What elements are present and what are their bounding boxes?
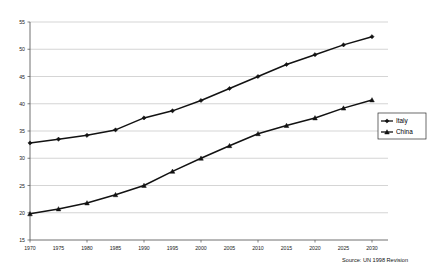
y-tick-label-30: 30 <box>19 155 25 161</box>
data-point-italy-2020 <box>313 53 317 57</box>
y-tick-label-50: 50 <box>19 46 25 52</box>
data-point-italy-2000 <box>199 98 203 102</box>
y-tick-label-25: 25 <box>19 183 25 189</box>
y-tick-label-40: 40 <box>19 101 25 107</box>
chart-container: 152025303540455055 197019751980198519901… <box>0 0 429 274</box>
data-point-italy-1985 <box>113 128 117 132</box>
y-tick-label-15: 15 <box>19 237 25 243</box>
y-tick-label-20: 20 <box>19 210 25 216</box>
data-point-italy-2025 <box>341 43 345 47</box>
x-tick-label-2030: 2030 <box>366 245 378 251</box>
x-axis-tick-labels: 1970197519801985199019952000200520102015… <box>24 245 378 251</box>
y-axis-tick-labels: 152025303540455055 <box>19 19 25 243</box>
data-point-italy-1975 <box>56 137 60 141</box>
x-tick-label-1970: 1970 <box>24 245 36 251</box>
data-point-italy-1970 <box>28 141 32 145</box>
data-point-italy-2010 <box>256 74 260 78</box>
x-tick-label-2000: 2000 <box>195 245 207 251</box>
x-tick-label-2005: 2005 <box>224 245 236 251</box>
axes <box>28 22 389 243</box>
chart-legend: ItalyChina <box>378 113 426 139</box>
x-tick-label-2010: 2010 <box>252 245 264 251</box>
x-tick-label-2025: 2025 <box>338 245 350 251</box>
source-note: Source: UN 1998 Revision <box>342 257 408 263</box>
series-italy <box>28 35 374 145</box>
data-point-italy-2005 <box>227 86 231 90</box>
data-point-italy-1995 <box>170 109 174 113</box>
x-tick-label-2015: 2015 <box>281 245 293 251</box>
data-point-italy-1980 <box>85 133 89 137</box>
x-tick-label-1995: 1995 <box>167 245 179 251</box>
x-tick-label-2020: 2020 <box>309 245 321 251</box>
series-line-italy <box>30 37 372 143</box>
data-series-group <box>28 35 375 216</box>
series-china <box>28 98 375 216</box>
x-tick-label-1975: 1975 <box>53 245 65 251</box>
data-point-italy-1990 <box>142 116 146 120</box>
y-tick-label-45: 45 <box>19 74 25 80</box>
y-tick-label-35: 35 <box>19 128 25 134</box>
x-tick-label-1990: 1990 <box>138 245 150 251</box>
legend-label-italy: Italy <box>396 117 409 125</box>
legend-label-china: China <box>396 128 413 135</box>
y-tick-label-55: 55 <box>19 19 25 25</box>
line-chart: 152025303540455055 197019751980198519901… <box>0 0 429 274</box>
gridlines <box>30 22 388 213</box>
data-point-italy-2015 <box>284 62 288 66</box>
x-tick-label-1985: 1985 <box>110 245 122 251</box>
data-point-italy-2030 <box>370 35 374 39</box>
x-tick-label-1980: 1980 <box>81 245 93 251</box>
